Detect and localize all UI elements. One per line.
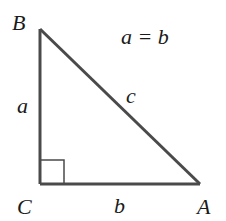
vertex-label-c: C [17,194,32,219]
equality-annotation: a = b [121,24,169,49]
vertex-label-b: B [12,10,25,35]
side-label-b: b [114,193,125,218]
vertex-label-a: A [195,194,211,219]
right-triangle-diagram: B C A a b c a = b [0,0,226,221]
side-label-a: a [17,93,28,118]
right-angle-marker [40,160,64,184]
side-label-c: c [126,83,136,108]
